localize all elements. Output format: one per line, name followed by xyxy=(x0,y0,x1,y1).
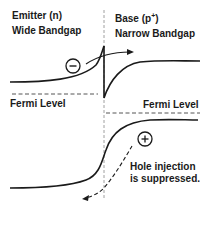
fermi-level-right-label: Fermi Level xyxy=(143,99,199,111)
base-conduction-band xyxy=(104,46,200,98)
hole-arrowhead xyxy=(82,195,89,201)
emitter-conduction-band xyxy=(10,46,104,82)
hole-injection-note: Hole injection is suppressed. xyxy=(130,161,200,185)
electron-arrowhead xyxy=(127,49,134,55)
fermi-level-left-label: Fermi Level xyxy=(10,98,66,110)
electron-arrow xyxy=(86,52,130,64)
hole-arrow xyxy=(86,146,132,198)
